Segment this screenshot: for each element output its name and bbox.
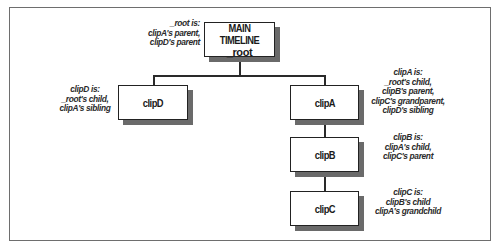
node-clipC-label: clipC [314,203,334,215]
annotation-clipB: clipB is: clipA's child, clipC's parent [368,133,448,162]
annotation-root: _root is: clipA's parent, clipD's parent [148,19,200,48]
connector-root-down [239,57,241,76]
node-clipB: clipB [290,137,359,172]
node-clipD-label: clipD [143,97,163,109]
node-clipD: clipD [118,85,188,120]
annotation-clipD-line: clipA's sibling [55,104,115,114]
annotation-clipC: clipC is: clipB's child clipA's grandchi… [368,188,448,217]
connector-clipA-clipB [324,120,326,137]
annotation-clipB-line: clipC's parent [368,152,448,162]
node-clipB-label: clipB [314,149,334,161]
connector-clipB-clipC [324,172,326,191]
annotation-root-line: clipD's parent [148,38,200,48]
node-clipC: clipC [290,191,359,226]
annotation-clipA: clipA is: _root's child, clipB's parent,… [368,68,448,116]
annotation-clipA-line: clipD's sibling [368,106,448,116]
annotation-clipC-line: clipA's grandchild [368,207,448,217]
connector-to-clipA [324,75,326,85]
annotation-clipD: clipD is: _root's child, clipA's sibling [55,85,115,114]
node-clipA: clipA [290,85,359,120]
node-main-timeline: MAIN TIMELINE _root [204,22,275,57]
node-main-timeline-label: MAIN TIMELINE [210,22,269,46]
node-main-timeline-sublabel: _root [227,46,253,58]
connector-horizontal [153,75,325,77]
connector-to-clipD [153,75,155,85]
node-clipA-label: clipA [314,97,334,109]
